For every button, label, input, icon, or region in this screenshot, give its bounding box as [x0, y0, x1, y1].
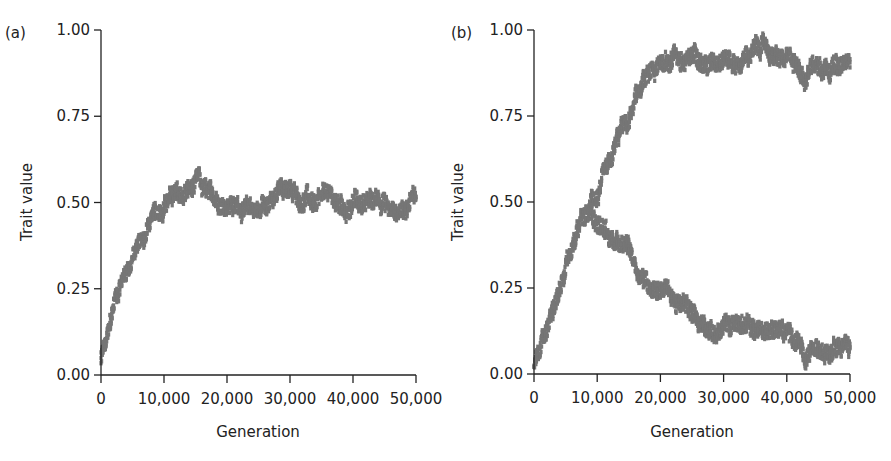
panel-b-ylabel: Trait value [449, 163, 467, 242]
panel-b-chart: (b) Trait value Generation 0.000.250.500… [449, 21, 876, 441]
panel-a-data-points [99, 166, 417, 365]
x-tick-label: 40,000 [761, 389, 814, 407]
y-tick-label: 0.00 [57, 366, 90, 384]
panel-a-xlabel: Generation [216, 423, 300, 441]
y-tick-label: 0.00 [490, 365, 523, 383]
y-tick-label: 0.25 [57, 280, 90, 298]
x-tick-label: 30,000 [697, 389, 750, 407]
y-tick-label: 0.75 [57, 107, 90, 125]
panel-a-chart: (a) Trait value Generation 0.000.250.500… [5, 21, 442, 441]
y-tick-label: 0.50 [490, 193, 523, 211]
panel-b-xlabel: Generation [650, 423, 734, 441]
panel-b-data-points [532, 31, 851, 370]
y-tick-label: 1.00 [490, 21, 523, 39]
y-tick-label: 0.25 [490, 279, 523, 297]
x-tick-label: 10,000 [571, 389, 624, 407]
x-tick-label: 50,000 [390, 390, 443, 408]
x-tick-label: 50,000 [824, 389, 877, 407]
x-tick-label: 0 [529, 389, 539, 407]
x-tick-label: 30,000 [264, 390, 317, 408]
x-tick-label: 40,000 [327, 390, 380, 408]
x-tick-label: 20,000 [634, 389, 687, 407]
y-tick-label: 0.50 [57, 194, 90, 212]
panel-a-ylabel: Trait value [18, 163, 36, 242]
panel-a-label: (a) [5, 24, 26, 42]
x-tick-label: 10,000 [138, 390, 191, 408]
figure: (a) Trait value Generation 0.000.250.500… [0, 0, 891, 461]
y-tick-label: 1.00 [57, 21, 90, 39]
x-tick-label: 20,000 [201, 390, 254, 408]
panel-b-label: (b) [451, 24, 472, 42]
y-tick-label: 0.75 [490, 107, 523, 125]
x-tick-label: 0 [96, 390, 106, 408]
